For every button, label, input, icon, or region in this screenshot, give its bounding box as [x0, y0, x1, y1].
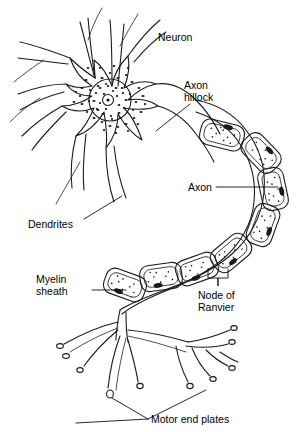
leader-motor-1	[112, 398, 148, 419]
label-myelin-line2: sheath	[36, 285, 68, 297]
nucleus	[89, 79, 131, 121]
label-node-line2: Ranvier	[198, 301, 235, 313]
neuron-diagram: Neuron Axon hillock Axon Dendrites Myeli…	[0, 0, 296, 432]
dendrites	[10, 8, 166, 204]
label-node-line1: Node of	[198, 289, 235, 301]
leader-axon-hillock	[156, 104, 190, 131]
label-dendrites: Dendrites	[28, 218, 73, 230]
leader-dendrites	[84, 196, 122, 219]
myelin-segment	[173, 250, 221, 289]
myelin-sheath	[101, 117, 290, 304]
figure-canvas: Neuron Axon hillock Axon Dendrites Myeli…	[0, 0, 296, 432]
soma	[62, 56, 158, 148]
label-axon: Axon	[188, 181, 212, 193]
label-axon-hillock-line1: Axon	[184, 79, 208, 91]
axon	[120, 100, 264, 314]
label-motor-end-plates: Motor end plates	[151, 413, 229, 425]
label-myelin-line1: Myelin	[36, 273, 67, 285]
myelin-segment	[256, 166, 290, 212]
label-axon-hillock-line2: hillock	[184, 91, 214, 103]
myelin-segment	[138, 261, 183, 293]
label-neuron: Neuron	[158, 31, 193, 43]
leader-motor-2	[76, 419, 148, 423]
myelin-segment	[101, 266, 149, 305]
motor-end-plates	[57, 310, 238, 398]
